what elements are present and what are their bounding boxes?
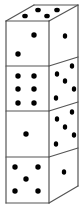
pip-dot [55,71,59,76]
pip-dot [63,124,67,129]
die-3-front-pips [23,131,28,136]
dice-stack-diagram: Stack of four dice [0,0,83,205]
pip-dot [55,116,59,121]
pip-dot [23,131,28,136]
pip-dot [70,109,74,114]
die-4-side-pips [62,169,66,174]
pip-dot [15,51,20,56]
pip-dot [72,132,76,137]
pip-dot [62,169,66,174]
pip-dot [23,176,28,181]
die-1-side-pips [63,33,67,38]
pip-dot [54,8,60,13]
dice-stack-svg [0,0,83,205]
pip-dot [22,14,28,19]
pip-dot [12,164,17,169]
pip-dot [31,73,36,78]
pip-dot [35,164,40,169]
pip-dot [35,8,41,13]
pip-dot [54,95,58,100]
pip-dot [70,63,74,68]
pip-dot [15,100,20,105]
pip-dot [54,141,58,146]
pip-dot [72,86,76,91]
pip-dot [15,73,20,78]
pip-dot [35,188,40,193]
pip-dot [31,32,36,37]
pip-dot [31,100,36,105]
pip-dot [15,86,20,91]
pip-dot [31,86,36,91]
front-face [6,21,49,203]
pip-dot [63,33,67,38]
pip-dot [44,14,50,19]
pip-dot [12,188,17,193]
pip-dot [63,78,67,83]
